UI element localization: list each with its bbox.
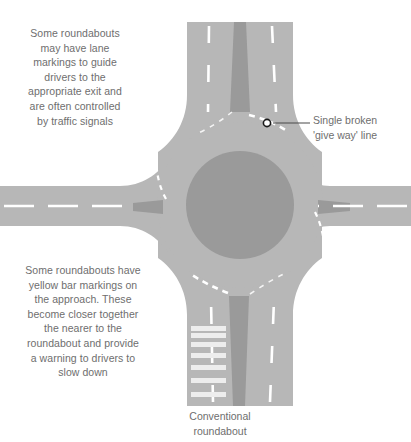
callout-marker-icon bbox=[263, 119, 270, 126]
lane-markings-note: Some roundabouts may have lane markings … bbox=[4, 26, 146, 128]
figure-caption: Conventional roundabout bbox=[152, 409, 288, 438]
bar-marking bbox=[191, 365, 226, 370]
give-way-line-label: Single broken 'give way' line bbox=[313, 113, 409, 142]
bar-marking bbox=[191, 333, 226, 338]
bar-marking bbox=[191, 378, 226, 383]
yellow-bar-note: Some roundabouts have yellow bar marking… bbox=[0, 263, 166, 380]
bar-marking bbox=[191, 353, 226, 358]
bar-marking bbox=[191, 392, 226, 397]
bar-marking bbox=[191, 326, 226, 331]
roundabout-figure: Some roundabouts may have lane markings … bbox=[0, 0, 411, 442]
bar-marking bbox=[191, 342, 226, 347]
central-island bbox=[186, 151, 294, 259]
